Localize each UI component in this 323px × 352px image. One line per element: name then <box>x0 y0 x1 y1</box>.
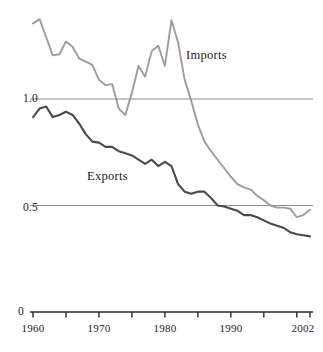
series-lines <box>33 19 310 236</box>
series-line-exports <box>33 106 310 236</box>
chart-figure: 1.0 0.5 0 1960 1970 1980 1990 2002 Impor… <box>0 0 323 352</box>
x-axis <box>30 312 313 318</box>
chart-plot-area <box>0 0 323 352</box>
